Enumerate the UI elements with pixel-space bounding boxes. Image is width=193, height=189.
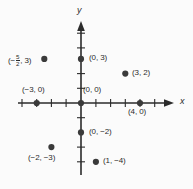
point-marker bbox=[48, 144, 54, 150]
point-marker bbox=[137, 100, 143, 106]
point-marker bbox=[41, 56, 47, 62]
point-label-neg3-0: (−3, 0) bbox=[22, 86, 45, 94]
plotted-points bbox=[34, 56, 143, 165]
x-axis-arrow bbox=[164, 99, 174, 107]
point-label-origin: (0, 0) bbox=[83, 86, 101, 94]
point-label-neg2-neg3: (−2, −3) bbox=[28, 154, 55, 162]
point-marker bbox=[78, 129, 84, 135]
point-label-0-3: (0, 3) bbox=[89, 54, 107, 62]
point-label-1-neg4: (1, −4) bbox=[103, 157, 126, 165]
point-label-0-neg2: (0, −2) bbox=[89, 128, 112, 136]
x-axis-label: x bbox=[180, 97, 185, 106]
point-label-neg-five-halves-3: (−52, 3) bbox=[8, 54, 31, 68]
point-marker bbox=[78, 56, 84, 62]
y-axis-label: y bbox=[77, 6, 82, 15]
fraction-five-halves: 52 bbox=[16, 54, 20, 68]
coordinate-plane: (−52, 3) (0, 3) (3, 2) (−3, 0) (0, 0) (4… bbox=[0, 0, 193, 189]
point-marker bbox=[34, 100, 40, 106]
point-marker bbox=[122, 71, 128, 77]
point-label-3-2: (3, 2) bbox=[132, 69, 150, 77]
y-axis-arrow bbox=[77, 21, 85, 31]
point-label-4-0: (4, 0) bbox=[128, 108, 146, 116]
point-marker bbox=[78, 100, 84, 106]
point-marker bbox=[93, 159, 99, 165]
